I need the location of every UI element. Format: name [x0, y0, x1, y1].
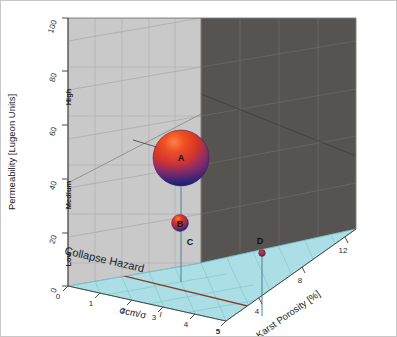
right-wall — [201, 18, 356, 263]
x-tick-3: 3 — [152, 313, 157, 322]
z-axis-title: Karst Porosity [%] — [254, 288, 322, 337]
x-axis-title: σcm/σ — [119, 304, 148, 320]
data-point-b-label: B — [177, 219, 184, 229]
y-axis: 100 80 60 40 20 0 Permeability [Lugeon U… — [6, 18, 73, 294]
data-point-a[interactable]: A — [153, 130, 209, 186]
y-tick-80: 80 — [48, 71, 59, 83]
x-tick-4: 4 — [184, 320, 189, 329]
z-tick-8: 8 — [298, 276, 303, 285]
data-point-d-label: D — [257, 236, 264, 246]
y-tick-20: 20 — [48, 233, 59, 245]
z-tick-12: 12 — [339, 246, 348, 255]
y-tick-40: 40 — [48, 179, 59, 191]
y-zone-medium: Medium — [64, 181, 73, 210]
x-tick-0: 0 — [56, 292, 61, 301]
z-tick-4: 4 — [255, 307, 260, 316]
x-tick-5: 5 — [216, 327, 221, 336]
y-tick-60: 60 — [48, 125, 59, 137]
x-axis-title-subscript: I — [159, 310, 163, 319]
data-point-a-label: A — [178, 153, 185, 163]
figure-container: 100 80 60 40 20 0 Permeability [Lugeon U… — [0, 0, 397, 337]
x-tick-1: 1 — [89, 299, 94, 308]
y-zone-high: High — [64, 88, 73, 105]
y-tick-100: 100 — [46, 18, 59, 34]
data-point-c-label: C — [187, 237, 194, 247]
three-d-scatter-plot: 100 80 60 40 20 0 Permeability [Lugeon U… — [1, 1, 397, 337]
data-point-b[interactable]: B — [172, 215, 189, 232]
y-axis-title: Permeability [Lugeon Units] — [6, 94, 17, 210]
